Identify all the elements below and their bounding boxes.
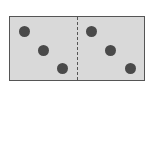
pip-left-3 [57, 63, 68, 74]
pip-right-3 [125, 63, 136, 74]
dashed-divider [77, 17, 78, 80]
domino-tile [9, 16, 145, 81]
pip-right-2 [105, 45, 116, 56]
pip-left-1 [19, 26, 30, 37]
pip-right-1 [86, 26, 97, 37]
pip-left-2 [38, 45, 49, 56]
